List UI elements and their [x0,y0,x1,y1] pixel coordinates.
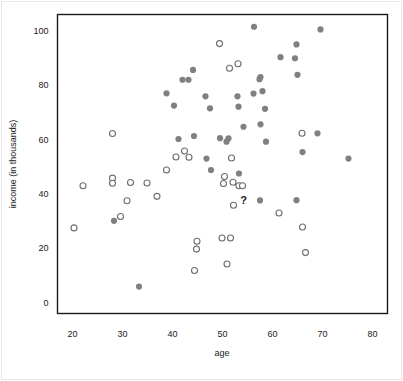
data-point-open [299,130,305,136]
data-point-open [300,224,306,230]
data-point-filled [345,155,351,161]
data-point-filled [163,90,169,96]
chart-canvas: 020406080100 20304050607080 ? age income… [0,0,403,381]
data-point-open [229,155,235,161]
x-tick-label: 30 [117,329,127,339]
data-point-open [110,180,116,186]
data-point-open [182,148,188,154]
data-point-filled [251,24,257,30]
y-tick-label: 0 [43,298,48,308]
x-tick-label: 80 [367,329,377,339]
data-point-open [228,235,234,241]
unknown-point-question-mark: ? [240,194,247,206]
data-point-filled [277,54,283,60]
data-point-open [186,154,192,160]
data-point-filled [223,139,229,145]
data-point-filled [202,93,208,99]
annotation-layer: ? [240,194,247,206]
data-point-open [235,61,241,67]
data-point-open [71,225,77,231]
data-point-open [173,154,179,160]
data-point-filled [235,104,241,110]
data-point-filled [293,41,299,47]
y-tick-label: 60 [38,135,48,145]
y-tick-label: 100 [33,26,48,36]
plot-area-border [58,15,388,314]
data-point-open [222,174,228,180]
data-point-filled [236,170,242,176]
data-point-open [80,183,86,189]
data-point-filled [185,77,191,83]
data-point-open [118,213,124,219]
data-point-open [217,41,223,47]
data-point-filled [250,91,256,97]
data-point-filled [136,283,142,289]
data-point-filled [207,105,213,111]
y-tick-label: 40 [38,189,48,199]
data-point-filled [190,67,196,73]
data-point-open [224,261,230,267]
data-point-filled [179,77,185,83]
data-point-filled [263,139,269,145]
x-tick-label: 60 [267,329,277,339]
data-point-open [194,246,200,252]
data-point-filled [262,106,268,112]
data-point-open [221,181,227,187]
data-point-open [144,180,150,186]
data-point-filled [234,93,240,99]
data-point-filled [257,197,263,203]
data-point-filled [314,130,320,136]
data-point-filled [317,26,323,32]
x-tick-label: 50 [217,329,227,339]
data-point-filled [217,135,223,141]
data-point-open [128,179,134,185]
data-point-open [219,235,225,241]
x-axis-label: age [214,348,229,358]
data-point-open [303,250,309,256]
y-tick-label: 80 [38,80,48,90]
data-point-filled [259,88,265,94]
data-point-filled [191,133,197,139]
data-point-filled [175,136,181,142]
scatter-plot-figure: 020406080100 20304050607080 ? age income… [0,0,403,381]
data-point-open [192,268,198,274]
data-point-filled [299,149,305,155]
x-tick-label: 40 [167,329,177,339]
data-point-open [240,183,246,189]
data-point-filled [294,72,300,78]
data-point-open [276,210,282,216]
y-axis-label: income (in thousands) [8,120,18,209]
data-point-filled [256,76,262,82]
data-point-open [164,167,170,173]
x-tick-label: 70 [317,329,327,339]
data-point-filled [293,197,299,203]
data-point-open [227,65,233,71]
data-point-open [194,238,200,244]
data-point-filled [257,121,263,127]
data-point-filled [203,155,209,161]
data-point-filled [240,124,246,130]
y-tick-label: 20 [38,243,48,253]
x-tick-label: 20 [67,329,77,339]
data-point-open [230,179,236,185]
data-point-filled [208,167,214,173]
data-point-filled [111,218,117,224]
data-point-filled [292,55,298,61]
data-point-open [154,193,160,199]
data-point-filled [171,102,177,108]
data-point-open [110,131,116,137]
data-point-open [124,198,130,204]
data-point-open [231,202,237,208]
